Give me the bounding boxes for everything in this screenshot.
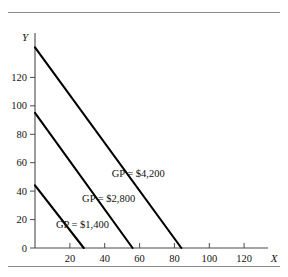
y-tick-label-100: 100 [11, 100, 27, 111]
y-tick-label-60: 60 [17, 157, 28, 168]
data-line-1 [35, 185, 84, 248]
series-label-gp-2800: GP = $2,800 [82, 193, 135, 204]
data-line-group [35, 47, 181, 248]
x-tick-label-20: 20 [65, 253, 76, 264]
series-label-gp-4200: GP = $4,200 [112, 168, 165, 179]
series-label-gp-1400: GP = $1,400 [56, 219, 109, 230]
x-tick-label-40: 40 [99, 253, 110, 264]
x-tick-label-80: 80 [169, 253, 180, 264]
y-tick-marks [30, 77, 35, 248]
y-tick-label-80: 80 [17, 129, 28, 140]
chart-figure: 0 20 40 60 80 100 120 20 40 60 80 100 12… [0, 0, 288, 277]
y-axis-name: Y [22, 31, 30, 43]
y-tick-label-40: 40 [17, 186, 28, 197]
x-tick-label-120: 120 [236, 253, 252, 264]
y-tick-label-20: 20 [17, 214, 28, 225]
x-tick-label-60: 60 [134, 253, 145, 264]
plot-area: 0 20 40 60 80 100 120 20 40 60 80 100 12… [0, 0, 288, 277]
y-tick-label-120: 120 [11, 72, 27, 83]
x-tick-marks [70, 243, 244, 248]
y-tick-label-0: 0 [22, 243, 27, 254]
x-tick-label-100: 100 [201, 253, 217, 264]
data-line-3 [35, 47, 181, 248]
x-axis-name: X [270, 252, 279, 264]
